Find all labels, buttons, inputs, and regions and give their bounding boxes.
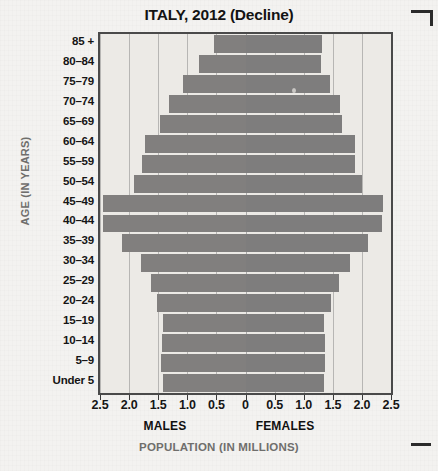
bar-male-8084 [199,55,246,73]
y-tick-6569: 65–69 [2,115,94,127]
pyramid-row [100,333,391,353]
y-tick-6064: 60–64 [2,135,94,147]
bar-male-1014 [162,334,245,352]
bar-female-6569 [246,115,342,133]
y-axis-title: AGE (IN YEARS) [19,116,31,246]
bar-female-4549 [246,195,384,213]
bar-female-2529 [246,274,339,292]
y-tick-7579: 75–79 [2,75,94,87]
pyramid-row [100,74,391,94]
males-axis-label: MALES [105,419,225,433]
bar-male-3539 [122,234,245,252]
scan-artifact-speck [292,88,296,93]
y-tick-3539: 35–39 [2,234,94,246]
pyramid-plot-area [98,32,393,395]
pyramid-row [100,54,391,74]
bar-female-5559 [246,155,355,173]
bar-female-1014 [246,334,326,352]
bar-male-85 [214,35,246,53]
pyramid-row [100,134,391,154]
y-tick-5054: 50–54 [2,175,94,187]
plot-inner [100,34,391,393]
bar-female-7579 [246,75,330,93]
pyramid-row [100,94,391,114]
pyramid-row [100,233,391,253]
pyramid-row [100,34,391,54]
bar-female-1519 [246,314,325,332]
y-tick-under5: Under 5 [2,374,94,386]
pyramid-row [100,154,391,174]
pyramid-row [100,194,391,214]
bar-female-3034 [246,254,351,272]
bar-female-2024 [246,294,332,312]
y-tick-85: 85 + [2,35,94,47]
y-tick-8084: 80–84 [2,55,94,67]
bar-male-6064 [145,135,246,153]
bar-male-4549 [103,195,246,213]
pyramid-row [100,373,391,393]
bar-male-4044 [103,215,246,233]
bar-male-3034 [141,254,246,272]
bar-male-5054 [134,175,246,193]
bar-male-6569 [160,115,246,133]
x-axis-title: POPULATION (IN MILLIONS) [0,441,438,453]
pyramid-row [100,273,391,293]
bar-male-7074 [169,95,246,113]
bar-female-7074 [246,95,340,113]
bar-female-59 [246,354,326,372]
x-tick-label-10: 2.5 [371,398,411,412]
y-tick-4044: 40–44 [2,214,94,226]
y-tick-59: 5–9 [2,354,94,366]
y-tick-4549: 45–49 [2,195,94,207]
bar-female-5054 [246,175,362,193]
pyramid-row [100,253,391,273]
pyramid-row [100,353,391,373]
y-tick-2024: 20–24 [2,294,94,306]
pyramid-row [100,214,391,234]
pyramid-row [100,174,391,194]
females-axis-label: FEMALES [225,419,345,433]
y-tick-5559: 55–59 [2,155,94,167]
bar-female-8084 [246,55,322,73]
pyramid-row [100,293,391,313]
bar-male-under5 [163,374,246,392]
pyramid-row [100,114,391,134]
pyramid-row [100,313,391,333]
y-tick-1519: 15–19 [2,314,94,326]
bar-male-5559 [142,155,246,173]
y-axis-tick-labels: 85 +80–8475–7970–7465–6960–6455–5950–544… [0,32,94,395]
bar-male-7579 [183,75,245,93]
y-tick-3034: 30–34 [2,254,94,266]
bar-female-85 [246,35,323,53]
bar-female-4044 [246,215,383,233]
bar-male-1519 [163,314,246,332]
bar-female-6064 [246,135,355,153]
bar-female-under5 [246,374,325,392]
y-tick-7074: 70–74 [2,95,94,107]
bar-male-59 [161,354,245,372]
bar-male-2529 [151,274,246,292]
chart-title: ITALY, 2012 (Decline) [0,6,438,24]
bar-male-2024 [157,294,245,312]
y-tick-2529: 25–29 [2,274,94,286]
y-tick-1014: 10–14 [2,334,94,346]
bar-female-3539 [246,234,368,252]
